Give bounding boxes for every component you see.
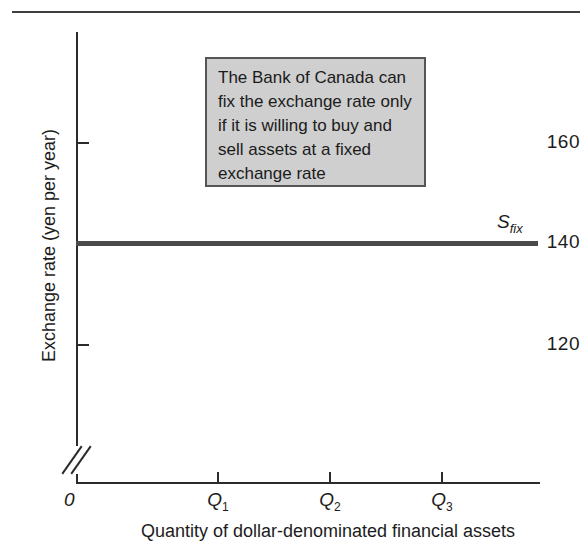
supply-curve-sfix	[76, 241, 538, 246]
x-tick-mark-q3	[441, 472, 443, 483]
x-axis-title: Quantity of dollar-denominated financial…	[0, 521, 580, 542]
annotation-textbox: The Bank of Canada can fix the exchange …	[205, 57, 426, 187]
x-tick-label-q1-text: Q	[207, 489, 222, 510]
x-tick-label-q2-text: Q	[319, 489, 334, 510]
supply-curve-label: Sfix	[497, 211, 523, 236]
x-tick-label-q1: Q1	[207, 489, 228, 514]
top-divider-rule	[12, 11, 580, 13]
origin-label: 0	[64, 489, 75, 511]
x-tick-label-q2: Q2	[319, 489, 340, 514]
x-tick-label-q1-subscript: 1	[222, 500, 229, 514]
annotation-line-1: The Bank of Canada can	[218, 66, 415, 90]
supply-curve-label-main: S	[497, 211, 510, 232]
x-tick-mark-q1	[217, 472, 219, 483]
x-tick-mark-q2	[329, 472, 331, 483]
x-axis-line	[76, 482, 540, 484]
annotation-line-5: exchange rate	[218, 162, 415, 186]
y-tick-label-160: 160	[520, 131, 580, 153]
y-tick-label-120: 120	[520, 333, 580, 355]
y-tick-mark-120	[78, 344, 89, 346]
x-tick-label-q3: Q3	[431, 489, 452, 514]
annotation-line-3: if it is willing to buy and	[218, 114, 415, 138]
x-tick-label-q3-text: Q	[431, 489, 446, 510]
exchange-rate-chart-figure: 160 140 120 Q1 Q2 Q3 0 Exchange rate (ye…	[0, 0, 580, 555]
y-tick-mark-160	[78, 142, 89, 144]
x-tick-label-q2-subscript: 2	[334, 500, 341, 514]
annotation-line-2: fix the exchange rate only	[218, 90, 415, 114]
supply-curve-label-subscript: fix	[510, 221, 523, 236]
y-axis-title: Exchange rate (yen per year)	[39, 81, 60, 411]
annotation-line-4: sell assets at a fixed	[218, 138, 415, 162]
x-tick-label-q3-subscript: 3	[446, 500, 453, 514]
y-axis-line	[76, 32, 78, 484]
y-axis-break-icon	[62, 441, 94, 479]
